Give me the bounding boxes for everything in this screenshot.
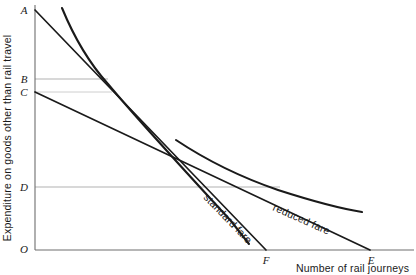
- axis-label-a: A: [20, 4, 28, 16]
- indifference-curve-diagram: A B C D O F E standard fare reduced fare…: [0, 0, 416, 275]
- x-axis-title: Number of rail journeys: [296, 262, 409, 274]
- axis-label-c: C: [20, 86, 28, 98]
- gridline-group: [35, 79, 280, 187]
- diagram-canvas: A B C D O F E standard fare reduced fare…: [0, 0, 416, 275]
- axis-label-o: O: [20, 243, 28, 255]
- annotation-standard-fare: standard fare: [202, 191, 255, 246]
- axis-label-b: B: [21, 73, 28, 85]
- y-axis-title: Expenditure on goods other than rail tra…: [1, 35, 13, 241]
- annotation-reduced-fare: reduced fare: [271, 201, 332, 237]
- axis-label-f: F: [262, 254, 270, 266]
- axis-label-d: D: [19, 181, 28, 193]
